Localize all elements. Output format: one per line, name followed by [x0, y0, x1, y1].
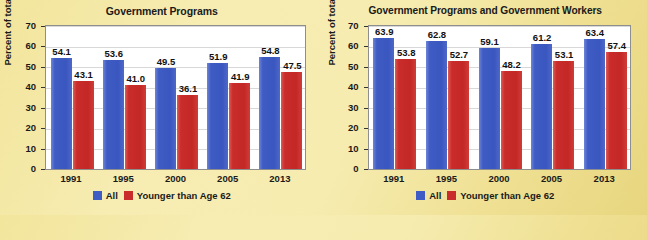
- bar-value-label: 59.1: [470, 36, 510, 47]
- bar-group: 61.253.1: [531, 26, 574, 169]
- bars-layer-left: 54.143.153.641.049.536.151.941.954.847.5: [46, 26, 305, 169]
- bar-all[interactable]: 54.8: [259, 57, 280, 169]
- bar-younger[interactable]: 43.1: [73, 81, 94, 169]
- bar-group: 63.953.8: [373, 26, 416, 169]
- y-axis-tick: [364, 46, 368, 47]
- bar-younger[interactable]: 53.1: [553, 61, 574, 169]
- bar-group: 63.457.4: [584, 26, 627, 169]
- bars-layer-right: 63.953.862.852.759.148.261.253.163.457.4: [369, 26, 630, 169]
- y-axis-tick: [364, 169, 368, 170]
- x-axis-label: 2013: [255, 173, 305, 184]
- legend-swatch-all-icon: [93, 191, 102, 200]
- bar-value-label: 53.8: [386, 47, 426, 58]
- bar-younger[interactable]: 57.4: [606, 52, 627, 169]
- bar-younger[interactable]: 53.8: [395, 59, 416, 169]
- x-axis-label: 1991: [46, 173, 96, 184]
- bar-value-label: 53.1: [544, 49, 584, 60]
- bar-value-label: 36.1: [168, 83, 208, 94]
- bar-group: 59.148.2: [479, 26, 522, 169]
- bar-younger[interactable]: 41.9: [229, 83, 250, 169]
- y-axis-tick: [41, 108, 45, 109]
- legend-label-younger: Younger than Age 62: [460, 190, 554, 201]
- bar-all[interactable]: 63.4: [584, 39, 605, 169]
- y-axis-tick: [364, 149, 368, 150]
- y-axis-tick: [364, 108, 368, 109]
- legend-item-younger: Younger than Age 62: [124, 190, 231, 201]
- y-axis-tick: [41, 149, 45, 150]
- y-axis-tick-label: 20: [337, 122, 359, 133]
- bar-value-label: 48.2: [492, 59, 532, 70]
- bar-value-label: 51.9: [198, 51, 238, 62]
- y-axis-tick: [41, 46, 45, 47]
- y-axis-tick-label: 70: [14, 20, 36, 31]
- x-axis-label: 2005: [203, 173, 253, 184]
- legend-label-all: All: [106, 190, 118, 201]
- bar-value-label: 49.5: [146, 56, 186, 67]
- chart-panel-government-programs-and-workers: Government Programs and Government Worke…: [324, 0, 647, 215]
- legend-item-all: All: [93, 190, 118, 201]
- y-axis-tick: [41, 67, 45, 68]
- bar-value-label: 41.9: [220, 71, 260, 82]
- chart-title-left: Government Programs: [0, 5, 324, 17]
- y-axis-tick-label: 70: [337, 20, 359, 31]
- plot-area-right: 63.953.862.852.759.148.261.253.163.457.4: [368, 25, 631, 170]
- x-axis-label: 2013: [579, 173, 629, 184]
- legend-right: All Younger than Age 62: [324, 190, 647, 201]
- y-axis-tick: [364, 67, 368, 68]
- chart-panel-government-programs: Government Programs Percent of total 54.…: [0, 0, 324, 215]
- legend-swatch-younger-icon: [124, 191, 133, 200]
- y-axis-tick-label: 40: [14, 81, 36, 92]
- y-axis-title-right: Percent of total: [326, 0, 337, 76]
- x-axis-label: 2005: [527, 173, 577, 184]
- bar-group: 62.852.7: [426, 26, 469, 169]
- legend-swatch-all-icon: [416, 191, 425, 200]
- bar-group: 49.536.1: [155, 26, 198, 169]
- y-axis-tick: [364, 26, 368, 27]
- y-axis-tick-label: 20: [14, 122, 36, 133]
- x-axis-label: 1995: [98, 173, 148, 184]
- y-axis-tick-label: 30: [14, 102, 36, 113]
- bar-value-label: 54.1: [42, 46, 82, 57]
- bar-value-label: 54.8: [250, 45, 290, 56]
- y-axis-tick-label: 40: [337, 81, 359, 92]
- chart-title-right: Government Programs and Government Worke…: [324, 5, 647, 16]
- bar-value-label: 53.6: [94, 48, 134, 59]
- y-axis-tick: [364, 128, 368, 129]
- legend-left: All Younger than Age 62: [0, 190, 324, 201]
- y-axis-tick-label: 60: [14, 40, 36, 51]
- legend-label-younger: Younger than Age 62: [137, 190, 231, 201]
- bar-group: 54.143.1: [51, 26, 94, 169]
- bar-value-label: 52.7: [439, 49, 479, 60]
- bar-younger[interactable]: 48.2: [501, 71, 522, 169]
- bar-younger[interactable]: 41.0: [125, 85, 146, 169]
- bar-value-label: 63.4: [575, 27, 615, 38]
- y-axis-tick-label: 0: [337, 163, 359, 174]
- y-axis-tick-label: 10: [14, 143, 36, 154]
- plot-area-left: 54.143.153.641.049.536.151.941.954.847.5: [45, 25, 306, 170]
- y-axis-tick-label: 60: [337, 40, 359, 51]
- y-axis-tick-label: 10: [337, 143, 359, 154]
- y-axis-tick: [41, 128, 45, 129]
- bar-younger[interactable]: 52.7: [448, 61, 469, 169]
- bar-group: 54.847.5: [259, 26, 302, 169]
- bar-value-label: 61.2: [522, 32, 562, 43]
- y-axis-tick-label: 50: [337, 61, 359, 72]
- bar-value-label: 43.1: [64, 69, 104, 80]
- x-axis-label: 1995: [421, 173, 471, 184]
- x-axis-label: 1991: [369, 173, 419, 184]
- y-axis-tick: [41, 87, 45, 88]
- bar-value-label: 57.4: [597, 40, 637, 51]
- bar-value-label: 62.8: [417, 29, 457, 40]
- x-axis-label: 2000: [474, 173, 524, 184]
- x-axis-label: 2000: [151, 173, 201, 184]
- y-axis-tick: [41, 26, 45, 27]
- bar-younger[interactable]: 47.5: [281, 72, 302, 169]
- bar-all[interactable]: 61.2: [531, 44, 552, 169]
- bar-value-label: 41.0: [116, 73, 156, 84]
- y-axis-tick-label: 30: [337, 102, 359, 113]
- y-axis-title-left: Percent of total: [2, 0, 13, 76]
- bar-younger[interactable]: 36.1: [177, 95, 198, 169]
- dual-bar-chart-figure: Government Programs Percent of total 54.…: [0, 0, 647, 215]
- y-axis-tick-label: 0: [14, 163, 36, 174]
- y-axis-tick: [41, 169, 45, 170]
